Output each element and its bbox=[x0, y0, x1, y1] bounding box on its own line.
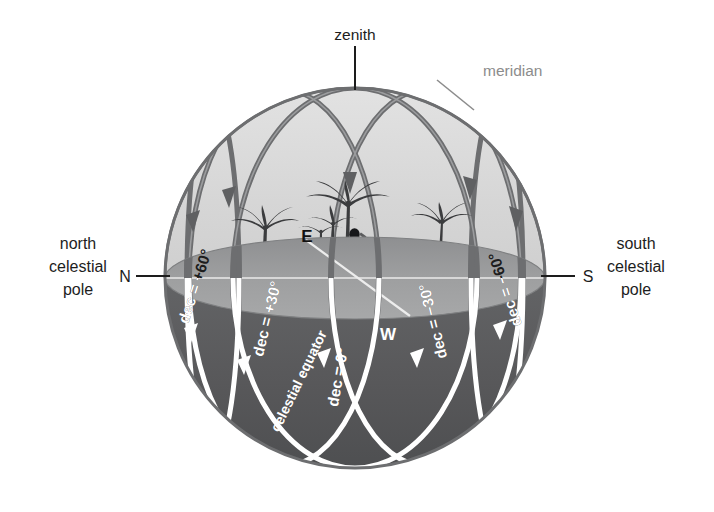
meridian-leader-line bbox=[437, 80, 474, 110]
ncp-line3: pole bbox=[63, 281, 93, 298]
scp-line3: pole bbox=[621, 281, 651, 298]
south-celestial-pole-label: south celestial pole S bbox=[583, 235, 665, 298]
scp-line2: celestial bbox=[607, 258, 665, 275]
horizon-plane bbox=[165, 237, 545, 319]
south-marker: S bbox=[583, 268, 594, 285]
north-celestial-pole-label: north celestial pole N bbox=[49, 235, 131, 298]
east-marker: E bbox=[301, 227, 312, 246]
north-marker: N bbox=[119, 268, 131, 285]
ncp-line2: celestial bbox=[49, 258, 107, 275]
west-marker: W bbox=[380, 325, 397, 344]
meridian-label: meridian bbox=[483, 62, 542, 79]
diagram-canvas: zenith meridian north celestial pole N s… bbox=[0, 0, 714, 512]
ncp-line1: north bbox=[60, 235, 96, 252]
celestial-sphere-diagram: zenith meridian north celestial pole N s… bbox=[0, 0, 714, 512]
zenith-label: zenith bbox=[334, 26, 375, 43]
scp-line1: south bbox=[616, 235, 655, 252]
